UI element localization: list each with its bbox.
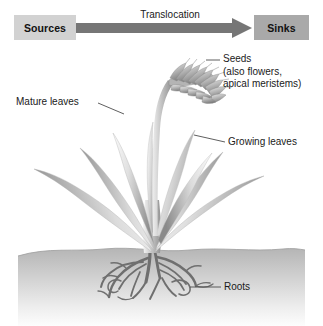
soil-band <box>18 248 305 326</box>
callout-label-mature-leaves: Mature leaves <box>16 96 79 109</box>
callout-label-seeds: Seeds (also flowers, apical meristems) <box>223 53 301 91</box>
translocation-label: Translocation <box>110 9 230 20</box>
callout-label-growing-leaves: Growing leaves <box>228 136 297 149</box>
leader-line-mature-leaves <box>98 103 124 114</box>
sources-box: Sources <box>14 15 76 40</box>
translocation-arrow <box>76 18 252 38</box>
callout-label-roots: Roots <box>224 281 250 294</box>
leader-line-growing-leaves <box>194 135 225 142</box>
plant-illustration <box>0 0 323 326</box>
translocation-diagram: Sources Sinks Translocation Seeds (also … <box>0 0 323 326</box>
sinks-box: Sinks <box>254 15 309 40</box>
